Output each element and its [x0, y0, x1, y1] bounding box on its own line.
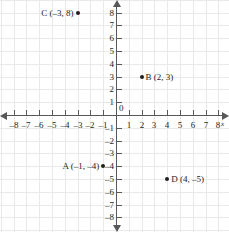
- y-tick-label: –3: [105, 149, 114, 158]
- x-tick-label: 1: [127, 121, 132, 130]
- grid-line-vertical: [78, 0, 79, 232]
- y-axis-tick: [117, 141, 122, 142]
- grid-line-horizontal: [0, 102, 229, 103]
- y-tick-label: –5: [105, 175, 114, 184]
- grid-line-horizontal: [0, 64, 229, 65]
- x-axis-tick: [65, 110, 66, 115]
- y-axis-tick: [117, 89, 122, 90]
- grid-line-vertical: [129, 0, 130, 232]
- y-tick-label: –2: [105, 137, 114, 146]
- x-tick-label: –8: [10, 121, 19, 130]
- x-axis-tick: [90, 110, 91, 115]
- y-axis-tick: [117, 64, 122, 65]
- x-axis-tick: [39, 110, 40, 115]
- x-tick-label: 7: [204, 121, 209, 130]
- x-axis-right-arrow-icon: [222, 112, 229, 120]
- grid-line-vertical: [39, 0, 40, 232]
- grid-line-horizontal: [0, 141, 229, 142]
- x-tick-label: –4: [61, 121, 70, 130]
- x-axis-tick: [142, 110, 143, 115]
- grid-line-vertical: [90, 0, 91, 232]
- y-axis-down-arrow-icon: [113, 225, 121, 232]
- grid-line-vertical: [193, 0, 194, 232]
- grid-line-horizontal: [0, 217, 229, 218]
- grid-line-vertical: [154, 0, 155, 232]
- data-point-label-a: A (–1, –4): [62, 162, 99, 171]
- x-tick-label: –2: [86, 121, 95, 130]
- x-axis: [4, 115, 225, 116]
- y-tick-label: 2: [110, 85, 115, 94]
- grid-line-horizontal: [0, 25, 229, 26]
- x-axis-tick: [218, 110, 219, 115]
- x-tick-label: –5: [48, 121, 57, 130]
- grid-line-vertical: [206, 0, 207, 232]
- grid-line-vertical: [26, 0, 27, 232]
- data-point-a[interactable]: [101, 164, 105, 168]
- y-axis-tick: [117, 166, 122, 167]
- y-tick-label: 8: [110, 9, 115, 18]
- grid-line-horizontal: [0, 166, 229, 167]
- x-tick-label: –3: [74, 121, 83, 130]
- x-axis-tick: [14, 110, 15, 115]
- y-tick-label: 1: [110, 98, 115, 107]
- y-tick-label: –1: [105, 124, 114, 133]
- grid-line-vertical: [180, 0, 181, 232]
- y-axis-tick: [117, 128, 122, 129]
- grid-line-vertical: [218, 0, 219, 232]
- y-tick-label: –8: [105, 213, 114, 222]
- grid-line-horizontal: [0, 77, 229, 78]
- grid-line-vertical: [65, 0, 66, 232]
- grid-line-horizontal: [0, 38, 229, 39]
- y-axis-tick: [117, 153, 122, 154]
- x-axis-tick: [193, 110, 194, 115]
- y-tick-label: –7: [105, 201, 114, 210]
- y-tick-label: 7: [110, 21, 115, 30]
- y-axis-up-arrow-icon: [113, 0, 121, 7]
- grid-line-vertical: [103, 0, 104, 232]
- x-tick-label: 3: [152, 121, 157, 130]
- grid-line-horizontal: [0, 153, 229, 154]
- data-point-b[interactable]: [140, 75, 144, 79]
- grid-line-vertical: [14, 0, 15, 232]
- grid-line-vertical: [142, 0, 143, 232]
- x-axis-tick: [167, 110, 168, 115]
- grid-line-horizontal: [0, 89, 229, 90]
- y-axis-tick: [117, 25, 122, 26]
- coordinate-plane: –8–7–6–5–4–3–2–11234567887654321–1–2–3–4…: [0, 0, 229, 232]
- x-axis-tick: [129, 110, 130, 115]
- y-axis-tick: [117, 13, 122, 14]
- x-axis-tick: [154, 110, 155, 115]
- y-tick-label: 6: [110, 34, 115, 43]
- origin-label: 0: [119, 104, 124, 113]
- x-tick-label: 4: [165, 121, 170, 130]
- y-tick-label: 4: [110, 60, 115, 69]
- grid-line-horizontal: [0, 205, 229, 206]
- data-point-label-c: C (–3, 8): [41, 8, 73, 17]
- grid-line-horizontal: [0, 13, 229, 14]
- x-axis-tick: [52, 110, 53, 115]
- data-point-c[interactable]: [76, 11, 80, 15]
- grid-line-horizontal: [0, 51, 229, 52]
- y-axis-tick: [117, 217, 122, 218]
- x-tick-label: 5: [178, 121, 183, 130]
- x-axis-tick: [180, 110, 181, 115]
- y-axis-tick: [117, 179, 122, 180]
- x-tick-label: –6: [35, 121, 44, 130]
- y-axis-tick: [117, 51, 122, 52]
- x-axis-tick: [103, 110, 104, 115]
- y-tick-label: 5: [110, 47, 115, 56]
- grid-line-vertical: [52, 0, 53, 232]
- data-point-label-d: D (4, –5): [171, 175, 204, 184]
- grid-line-vertical: [167, 0, 168, 232]
- x-axis-tick: [206, 110, 207, 115]
- y-axis-tick: [117, 38, 122, 39]
- x-tick-label: 8: [216, 121, 221, 130]
- y-tick-label: –6: [105, 188, 114, 197]
- x-tick-label: 6: [191, 121, 196, 130]
- y-axis-tick: [117, 192, 122, 193]
- y-tick-label: 3: [110, 73, 115, 82]
- x-tick-label: 2: [140, 121, 145, 130]
- y-tick-label: –4: [105, 162, 114, 171]
- data-point-d[interactable]: [165, 177, 169, 181]
- grid-line-horizontal: [0, 192, 229, 193]
